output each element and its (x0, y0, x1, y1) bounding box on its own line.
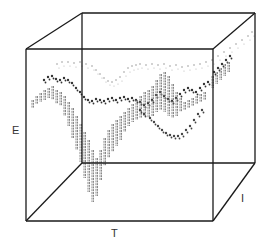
data-layer (32, 31, 255, 202)
axis-label-t: T (111, 228, 118, 239)
3d-chart (0, 0, 270, 249)
axis-label-e: E (12, 125, 19, 136)
box-frame (26, 13, 255, 221)
axis-label-i: I (241, 193, 244, 204)
